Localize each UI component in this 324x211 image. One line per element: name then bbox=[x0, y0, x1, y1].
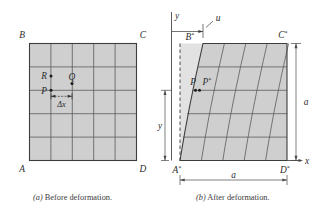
caption-after-text: After deformation. bbox=[207, 193, 269, 202]
after-point-P-star-dot bbox=[198, 89, 201, 92]
after-dimension-height-a-label: a bbox=[304, 97, 309, 107]
after-deformation-diagram: y x u B* C* A* D* P P* bbox=[157, 11, 310, 185]
after-dimension-height-a bbox=[291, 44, 301, 161]
after-displacement-u-label: u bbox=[216, 13, 221, 23]
deformation-figure: B C A D Δx P Q R bbox=[0, 0, 324, 211]
after-corner-label-D: D* bbox=[279, 164, 290, 175]
before-deformation-diagram: B C A D Δx P Q R bbox=[18, 30, 147, 174]
after-point-P-dot bbox=[194, 89, 197, 92]
before-corner-label-C: C bbox=[140, 30, 147, 40]
before-corner-label-A: A bbox=[18, 164, 25, 174]
before-point-label-P: P bbox=[40, 86, 47, 96]
before-point-Q-dot bbox=[71, 82, 74, 85]
before-square-fill bbox=[30, 44, 137, 161]
before-point-R-dot bbox=[50, 75, 53, 78]
after-point-label-P: P bbox=[189, 77, 196, 87]
before-point-P-dot bbox=[50, 89, 53, 92]
after-corner-label-C: C* bbox=[278, 29, 287, 40]
before-point-label-R: R bbox=[40, 71, 47, 81]
before-point-label-Q: Q bbox=[69, 72, 76, 82]
caption-before-text: Before deformation. bbox=[45, 193, 112, 202]
after-y-axis-label: y bbox=[174, 11, 180, 21]
after-dimension-width-a-label: a bbox=[231, 170, 236, 180]
caption-before-prefix: (a) bbox=[33, 193, 43, 202]
before-delta-x-label: Δx bbox=[56, 100, 66, 109]
before-corner-label-D: D bbox=[139, 164, 147, 174]
after-x-axis-label: x bbox=[304, 156, 310, 166]
caption-after-prefix: (b) bbox=[196, 193, 206, 202]
before-corner-label-B: B bbox=[19, 30, 25, 40]
after-dimension-y bbox=[161, 90, 172, 160]
caption-before: (a) Before deformation. bbox=[33, 193, 112, 202]
caption-after: (b) After deformation. bbox=[196, 193, 270, 202]
after-dimension-y-label: y bbox=[157, 121, 163, 131]
after-corner-label-B: B* bbox=[186, 31, 195, 42]
after-corner-label-A: A* bbox=[172, 164, 182, 175]
